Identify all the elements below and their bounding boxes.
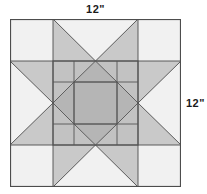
inner-corner-square-br — [117, 124, 138, 145]
inner-center-square — [74, 82, 117, 124]
block-group — [10, 19, 181, 187]
inner-corner-square-bl — [53, 124, 74, 145]
quilt-block-drawing — [10, 19, 181, 187]
outer-corner-square-bl — [10, 145, 53, 187]
outer-corner-square-tl — [10, 19, 53, 61]
dimension-label-top: 12" — [0, 4, 191, 15]
outer-corner-square-br — [138, 145, 181, 187]
inner-corner-square-tl — [53, 61, 74, 82]
inner-corner-square-tr — [117, 61, 138, 82]
dimension-label-right: 12" — [186, 98, 205, 109]
quilt-block-figure: 12" 12" — [0, 0, 207, 194]
outer-corner-square-tr — [138, 19, 181, 61]
